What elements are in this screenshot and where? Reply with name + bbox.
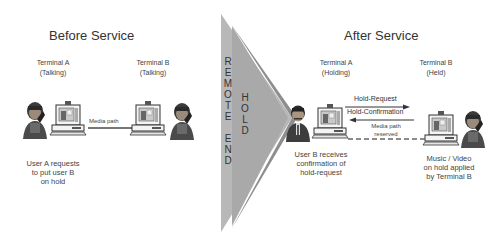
media-path-reserved-label: Media path reserved — [356, 122, 416, 138]
before-terminal-a-label: Terminal A (Talking) — [30, 58, 76, 78]
terminal-state: (Holding) — [313, 68, 359, 78]
arrowhead-right-icon — [403, 105, 410, 110]
terminal-name: Terminal A — [313, 58, 359, 68]
terminal-state: (Talking) — [30, 68, 76, 78]
media-path-label: Media path — [89, 117, 119, 125]
before-service-title: Before Service — [49, 28, 134, 43]
hold-request-label: Hold-Request — [354, 95, 397, 102]
hold-confirmation-label: Hold-Confirmation — [347, 108, 403, 115]
terminal-a-computer — [50, 101, 86, 135]
user-a-figure — [23, 102, 47, 139]
user-b-figure — [170, 103, 194, 140]
terminal-name: Terminal A — [30, 58, 76, 68]
user-b-held-figure — [461, 111, 485, 148]
after-terminal-b-label: Terminal B (Held) — [413, 58, 459, 78]
terminal-b-computer — [130, 101, 166, 135]
terminal-name: Terminal B — [130, 58, 176, 68]
before-note: User A requests to put user B on hold — [18, 159, 88, 186]
terminal-b-held-computer — [423, 111, 459, 145]
terminal-state: (Talking) — [130, 68, 176, 78]
arrowhead-left-icon — [349, 118, 356, 123]
after-terminal-a-label: Terminal A (Holding) — [313, 58, 359, 78]
after-note-b: Music / Video on hold applied by Termina… — [418, 154, 480, 181]
hold-text: H O L D — [240, 92, 250, 136]
terminal-name: Terminal B — [413, 58, 459, 68]
terminal-a-holding-computer — [312, 104, 348, 138]
before-terminal-b-label: Terminal B (Talking) — [130, 58, 176, 78]
after-note-a: User B receives confirmation of hold-req… — [290, 150, 352, 177]
terminal-state: (Held) — [413, 68, 459, 78]
remote-end-text: R E M O T E E N D — [223, 56, 233, 166]
after-service-title: After Service — [344, 28, 418, 43]
